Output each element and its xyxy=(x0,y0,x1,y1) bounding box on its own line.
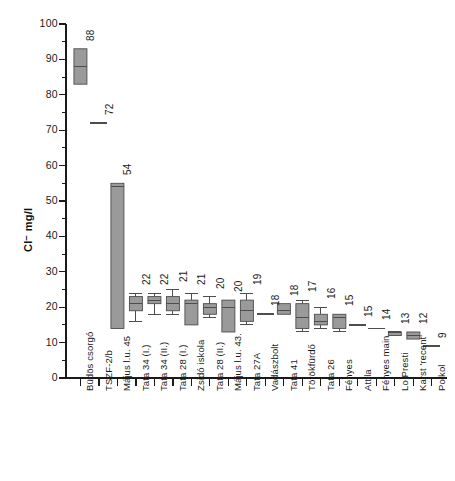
x-axis-tick-label: Lo Presti xyxy=(399,353,410,391)
y-axis-tick-label: 100 xyxy=(14,17,58,29)
box-value-label: 72 xyxy=(104,104,115,116)
y-axis-tick-label: 40 xyxy=(14,229,58,241)
x-axis-tick-label: Polkol xyxy=(436,365,447,391)
box xyxy=(222,300,235,332)
box xyxy=(111,183,124,328)
box-value-label: 21 xyxy=(178,270,189,282)
box-value-label: 9 xyxy=(437,332,448,338)
x-axis-tick-label: Tata 41 xyxy=(288,359,299,391)
boxplot-chart: 0102030405060708090100Büdös csorgóTSZF-2… xyxy=(0,0,455,481)
box-value-label: 12 xyxy=(418,312,429,324)
y-axis-tick-label: 50 xyxy=(14,194,58,206)
box-value-label: 20 xyxy=(215,277,226,289)
y-axis-tick-label: 30 xyxy=(14,265,58,277)
y-axis-tick-label: 60 xyxy=(14,159,58,171)
box xyxy=(203,304,216,315)
y-axis-tick-label: 80 xyxy=(14,88,58,100)
box-value-label: 15 xyxy=(344,295,355,307)
box xyxy=(314,314,327,325)
x-axis-tick-label: Május l.u. 45 xyxy=(121,336,132,391)
x-axis-tick-label: Karst 'recent' xyxy=(417,335,428,391)
x-axis-tick-label: Fényes xyxy=(343,359,354,391)
box-value-label: 17 xyxy=(307,281,318,293)
box xyxy=(333,314,346,328)
y-axis-tick-label: 10 xyxy=(14,336,58,348)
chart-canvas xyxy=(0,0,455,481)
x-axis-tick-label: Tata 27A xyxy=(251,353,262,391)
box-value-label: 18 xyxy=(270,295,281,307)
box-value-label: 13 xyxy=(400,312,411,324)
x-axis-tick-label: Tata 28 (I.) xyxy=(177,344,188,391)
x-axis-tick-label: Büdös csorgó xyxy=(84,332,95,391)
y-axis-tick-label: 20 xyxy=(14,300,58,312)
box-value-label: 22 xyxy=(141,274,152,286)
box-value-label: 16 xyxy=(326,288,337,300)
x-axis-tick-label: Tata 34 (II.) xyxy=(158,342,169,391)
x-axis-tick-label: Attila xyxy=(362,369,373,391)
x-axis-tick-label: Törökfürdő xyxy=(306,344,317,391)
y-axis-tick-label: 70 xyxy=(14,123,58,135)
x-axis-tick-label: Tata 26 xyxy=(325,359,336,391)
box-value-label: 22 xyxy=(159,274,170,286)
y-axis-title: Cl⁻ mg/l xyxy=(22,208,35,252)
x-axis-tick-label: Május l.u. 43. xyxy=(232,333,243,391)
x-axis-tick-label: Tata 34 (I.) xyxy=(140,344,151,391)
x-axis-tick-label: Fényes main xyxy=(380,336,391,391)
x-axis-tick-label: Vadászbolt xyxy=(269,344,280,391)
box-value-label: 54 xyxy=(122,164,133,176)
y-axis-tick-label: 0 xyxy=(14,371,58,383)
x-axis-tick-label: TSZF-2/b xyxy=(103,350,114,391)
x-axis-tick-label: Zsidó iskola xyxy=(195,340,206,391)
x-axis-tick-label: Tata 28 (II.) xyxy=(214,342,225,391)
box-value-label: 21 xyxy=(196,274,207,286)
box xyxy=(296,304,309,329)
y-axis-tick-label: 90 xyxy=(14,52,58,64)
box-value-label: 20 xyxy=(233,281,244,293)
box-value-label: 14 xyxy=(381,309,392,321)
box-value-label: 15 xyxy=(363,305,374,317)
box-value-label: 19 xyxy=(252,274,263,286)
box-value-label: 88 xyxy=(85,29,96,41)
box-value-label: 18 xyxy=(289,284,300,296)
